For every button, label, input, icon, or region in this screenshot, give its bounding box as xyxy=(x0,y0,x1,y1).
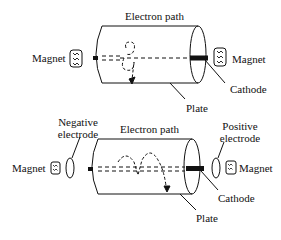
bottom-plate-label: Plate xyxy=(196,213,218,224)
bottom-arrow-icon xyxy=(164,186,170,192)
top-left-stub xyxy=(93,56,98,60)
negative-electrode-label-line2: electrode xyxy=(48,129,108,140)
bottom-axis-dashes xyxy=(98,167,185,171)
top-magnet-right-label: Magnet xyxy=(232,54,266,65)
bottom-plate-leader xyxy=(180,194,196,210)
bottom-magnet-right-icon xyxy=(226,161,236,174)
positive-electrode-leader xyxy=(218,142,224,158)
positive-electrode-icon xyxy=(212,158,220,178)
top-plate-leader xyxy=(170,83,185,99)
bottom-electron-path xyxy=(118,153,166,186)
top-magnet-right-icon xyxy=(214,48,226,66)
negative-electrode-leader xyxy=(72,137,80,158)
bottom-magnet-right-label: Magnet xyxy=(239,163,273,174)
bottom-cathode-label: Cathode xyxy=(218,193,255,204)
top-axis-dashes xyxy=(102,56,192,60)
bottom-cathode-rod xyxy=(186,166,204,171)
bottom-cathode-leader xyxy=(201,171,218,190)
top-diagram xyxy=(70,26,226,99)
positive-electrode-label-line1: Positive xyxy=(210,121,270,132)
bottom-diagram xyxy=(51,137,236,210)
top-cylinder xyxy=(96,26,206,83)
bottom-magnet-left-label: Magnet xyxy=(12,163,46,174)
top-plate-label: Plate xyxy=(186,103,208,114)
negative-electrode-icon xyxy=(66,158,74,178)
bottom-magnet-left-icon xyxy=(51,162,60,174)
top-electron-loop xyxy=(122,42,134,80)
positive-electrode-label-line2: electrode xyxy=(210,133,270,144)
bottom-electron-path-label: Electron path xyxy=(120,124,179,135)
top-magnet-left-icon xyxy=(70,50,82,67)
top-electron-path-label: Electron path xyxy=(125,11,184,22)
top-magnet-left-label: Magnet xyxy=(32,53,66,64)
top-cathode-label: Cathode xyxy=(230,84,267,95)
bottom-left-stub xyxy=(88,167,93,171)
negative-electrode-label-line1: Negative xyxy=(48,117,108,128)
